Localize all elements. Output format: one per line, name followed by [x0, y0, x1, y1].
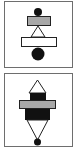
small-dot-icon: [34, 139, 41, 146]
gray-bar-shape: [20, 101, 56, 109]
small-dot-icon: [34, 8, 42, 16]
panel-2-shapes: [20, 80, 56, 146]
top-triangle-shape: [29, 80, 46, 93]
panel-1-shapes: [22, 8, 57, 61]
triangle-shape: [31, 26, 45, 37]
upper-black-block-shape: [30, 93, 46, 101]
lower-black-block-shape: [25, 109, 50, 120]
bottom-triangle-shape: [27, 120, 48, 140]
diagram-canvas: [0, 0, 76, 151]
gray-bar-shape: [28, 17, 51, 26]
white-bar-shape: [22, 38, 57, 47]
large-dot-icon: [32, 48, 45, 61]
